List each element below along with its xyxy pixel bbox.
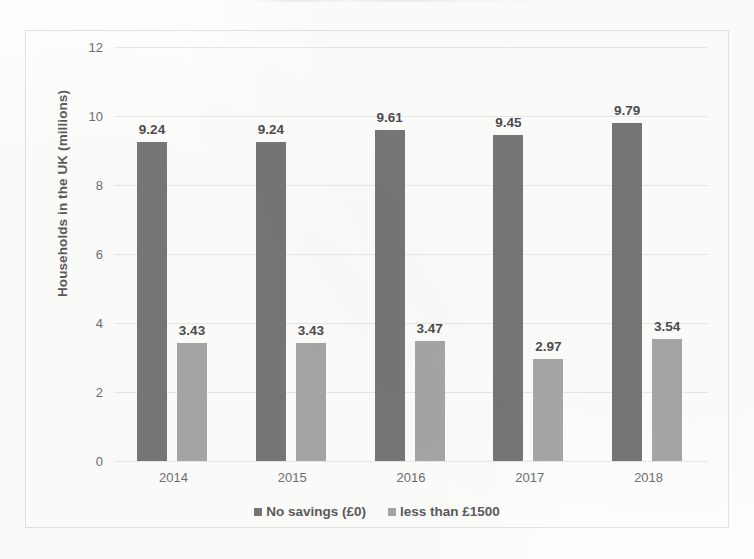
x-tick-label-2014: 2014 (114, 470, 233, 485)
bar-value-label: 9.24 (258, 122, 284, 137)
y-tick-label-12: 12 (89, 40, 103, 55)
scan-bleed-artifact (245, 0, 545, 1)
x-tick-label-2018: 2018 (589, 470, 708, 485)
bar-less-than-1500-2016[interactable]: 3.47 (415, 341, 445, 461)
bar-value-label: 3.43 (298, 323, 324, 338)
chart-page: Households in the UK (millions) 0 2 4 6 … (0, 0, 754, 559)
legend-label: No savings (£0) (266, 504, 366, 519)
y-axis-title: Households in the UK (millions) (55, 54, 70, 334)
bar-less-than-1500-2017[interactable]: 2.97 (533, 359, 563, 462)
y-tick-label-2: 2 (96, 385, 103, 400)
y-tick-label-10: 10 (89, 109, 103, 124)
legend-swatch-icon (388, 508, 396, 516)
bar-value-label: 3.43 (179, 323, 205, 338)
legend-item-less-than-1500[interactable]: less than £1500 (388, 504, 500, 519)
chart-frame: Households in the UK (millions) 0 2 4 6 … (25, 30, 729, 528)
bar-value-label: 9.45 (495, 115, 521, 130)
bar-value-label: 3.54 (654, 319, 680, 334)
bar-no-savings-2014[interactable]: 9.24 (137, 142, 167, 461)
bar-no-savings-2017[interactable]: 9.45 (493, 135, 523, 461)
bar-group-2017: 9.45 2.97 2017 (470, 47, 589, 461)
bar-less-than-1500-2015[interactable]: 3.43 (296, 343, 326, 461)
bar-no-savings-2015[interactable]: 9.24 (256, 142, 286, 461)
bar-group-2016: 9.61 3.47 2016 (352, 47, 471, 461)
bar-group-2015: 9.24 3.43 2015 (233, 47, 352, 461)
legend-label: less than £1500 (400, 504, 500, 519)
x-tick-label-2017: 2017 (470, 470, 589, 485)
bar-value-label: 2.97 (535, 339, 561, 354)
gridline-0: 0 (114, 461, 708, 462)
legend-swatch-icon (254, 508, 262, 516)
bar-less-than-1500-2018[interactable]: 3.54 (652, 339, 682, 461)
plot-area: 0 2 4 6 8 10 12 9.24 (114, 47, 708, 461)
bar-group-2014: 9.24 3.43 2014 (114, 47, 233, 461)
y-tick-label-0: 0 (96, 454, 103, 469)
bar-value-label: 9.24 (139, 122, 165, 137)
y-tick-label-8: 8 (96, 178, 103, 193)
x-tick-label-2016: 2016 (352, 470, 471, 485)
legend-item-no-savings[interactable]: No savings (£0) (254, 504, 366, 519)
bar-less-than-1500-2014[interactable]: 3.43 (177, 343, 207, 461)
bar-no-savings-2016[interactable]: 9.61 (375, 130, 405, 462)
bar-value-label: 9.61 (376, 110, 402, 125)
y-tick-label-6: 6 (96, 247, 103, 262)
bar-group-2018: 9.79 3.54 2018 (589, 47, 708, 461)
y-tick-label-4: 4 (96, 316, 103, 331)
x-tick-label-2015: 2015 (233, 470, 352, 485)
chart-legend: No savings (£0) less than £1500 (26, 504, 728, 519)
bar-value-label: 9.79 (614, 103, 640, 118)
bar-no-savings-2018[interactable]: 9.79 (612, 123, 642, 461)
bar-value-label: 3.47 (416, 321, 442, 336)
